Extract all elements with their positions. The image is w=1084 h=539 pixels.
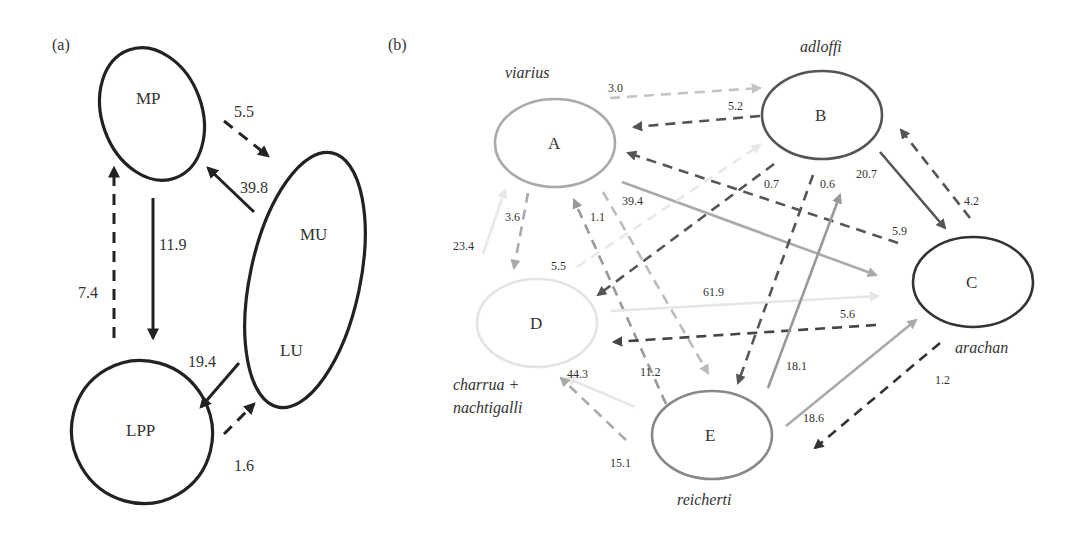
edge-18-1: 18.1 <box>768 195 840 388</box>
edge-0-6: 0.6 <box>738 175 835 383</box>
panel-a-migration-diagram: MPMULULPP5.539.811.97.419.41.6 <box>45 33 385 529</box>
dashed-arrow <box>514 193 528 268</box>
edge-label: 0.7 <box>764 177 779 191</box>
edge-label: 3.6 <box>505 210 520 224</box>
edge-5-5: 5.5 <box>551 145 760 273</box>
solid-arrow <box>611 296 878 311</box>
edge-label: 3.0 <box>608 81 623 95</box>
node-ellipse <box>82 33 222 195</box>
node-label: E <box>705 426 715 445</box>
solid-arrow <box>880 152 945 228</box>
edge-1-2: 1.2 <box>815 343 950 448</box>
node-b: Badloffi <box>762 38 882 159</box>
dashed-arrow <box>603 192 708 373</box>
panel-b-migration-diagram: 3.05.25.939.40.70.620.74.23.623.45.51.11… <box>453 38 1033 508</box>
edge-label: 18.6 <box>803 411 824 425</box>
edge-5-2: 5.2 <box>634 99 760 127</box>
edge-18-6: 18.6 <box>786 320 916 426</box>
node-label: C <box>966 273 977 292</box>
edge-label: 1.6 <box>234 457 254 474</box>
edge-1-6: 1.6 <box>224 404 254 474</box>
solid-arrow <box>622 182 876 275</box>
dashed-arrow <box>577 145 760 267</box>
edge-label: 5.9 <box>892 224 907 238</box>
node-c: Carachan <box>913 237 1033 356</box>
node-d: Dcharrua +nachtigalli <box>453 279 597 417</box>
edge-label: 18.1 <box>786 359 807 373</box>
edge-label: 4.2 <box>964 194 979 208</box>
solid-arrow <box>483 190 505 254</box>
dashed-arrow <box>815 343 940 448</box>
dashed-arrow <box>224 404 254 434</box>
node-e: Ereicherti <box>652 391 772 508</box>
dashed-arrow <box>610 88 760 98</box>
edge-label: 5.5 <box>234 103 254 120</box>
dashed-arrow <box>224 121 268 156</box>
edge-11-2: 11.2 <box>603 192 708 379</box>
edge-label: 44.3 <box>567 367 588 381</box>
species-label: nachtigalli <box>453 399 522 417</box>
edge-23-4: 23.4 <box>453 190 505 254</box>
panel-a-label: (a) <box>52 36 70 54</box>
edge-label: 23.4 <box>453 239 474 253</box>
node-label: D <box>530 314 542 333</box>
dashed-arrow <box>561 378 626 440</box>
node-label: LPP <box>126 421 155 440</box>
species-label: arachan <box>955 339 1008 356</box>
edge-label: 7.4 <box>78 284 98 301</box>
panel-b-label: (b) <box>388 36 407 54</box>
edge-3-6: 3.6 <box>505 193 528 268</box>
edge-label: 11.2 <box>640 365 661 379</box>
edge-label: 5.2 <box>728 99 743 113</box>
node-label-lu: LU <box>280 341 303 360</box>
edge-label: 1.2 <box>935 373 950 387</box>
dashed-arrow <box>738 175 813 383</box>
edge-label: 15.1 <box>610 456 631 470</box>
edge-label: 39.8 <box>240 179 268 196</box>
diagram-canvas: (a) (b) MPMULULPP5.539.811.97.419.41.6 3… <box>0 0 1084 539</box>
node-label: B <box>815 106 826 125</box>
species-label: charrua + <box>453 376 519 393</box>
edge-3-0: 3.0 <box>608 81 760 98</box>
edge-20-7: 20.7 <box>856 152 945 228</box>
node-a: Aviarius <box>495 64 615 187</box>
edge-label: 39.4 <box>622 194 643 208</box>
edge-4-2: 4.2 <box>901 130 979 218</box>
node-label: MP <box>136 89 161 108</box>
species-label: reicherti <box>677 491 732 508</box>
dashed-arrow <box>901 130 970 218</box>
edge-7-4: 7.4 <box>78 168 114 338</box>
dashed-arrow <box>634 116 760 127</box>
edge-label: 61.9 <box>703 285 724 299</box>
edge-label: 5.5 <box>551 259 566 273</box>
edge-label: 5.6 <box>840 307 855 321</box>
edge-11-9: 11.9 <box>153 198 186 338</box>
edge-5-6: 5.6 <box>614 307 876 342</box>
edge-label: 20.7 <box>856 167 877 181</box>
edge-5-5: 5.5 <box>224 103 268 156</box>
edge-39-4: 39.4 <box>622 182 876 275</box>
species-label: adloffi <box>800 38 842 56</box>
edge-39-8: 39.8 <box>208 168 268 212</box>
edge-15-1: 15.1 <box>561 378 631 470</box>
edge-label: 1.1 <box>590 210 605 224</box>
edge-61-9: 61.9 <box>611 285 878 311</box>
node-label-mu: MU <box>300 225 327 244</box>
edge-label: 11.9 <box>159 236 186 253</box>
edge-44-3: 44.3 <box>567 367 635 407</box>
edge-label: 0.6 <box>820 177 835 191</box>
edge-19-4: 19.4 <box>188 353 239 407</box>
dashed-arrow <box>614 325 876 342</box>
edge-label: 19.4 <box>188 353 216 370</box>
species-label: viarius <box>505 64 549 81</box>
node-label: A <box>548 134 561 153</box>
node-mp: MP <box>82 33 222 195</box>
